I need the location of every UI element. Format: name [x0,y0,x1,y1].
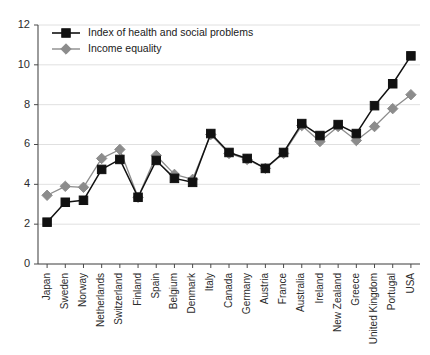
data-point-marker [225,148,234,157]
y-tick-label: 12 [18,18,30,30]
x-tick-label: Belgium [168,273,179,309]
chart-container: 024681012JapanSwedenNorwayNetherlandsSwi… [0,0,430,355]
y-tick-label: 6 [24,137,30,149]
data-point-marker [96,153,106,163]
line-chart: 024681012JapanSwedenNorwayNetherlandsSwi… [0,0,430,355]
data-point-marker [352,129,361,138]
data-point-marker [407,52,416,61]
series-income-equality [42,90,416,203]
x-axis-ticks: JapanSwedenNorwayNetherlandsSwitzerlandF… [41,264,416,344]
y-axis-ticks: 024681012 [18,18,38,269]
data-point-marker [334,120,343,129]
data-point-marker [43,218,52,227]
legend-label: Income equality [88,42,162,54]
x-tick-label: Finland [132,273,143,306]
data-point-marker [134,193,143,202]
x-tick-label: Ireland [314,273,325,304]
x-tick-label: Australia [295,273,306,312]
x-tick-label: Spain [150,273,161,299]
data-point-marker [79,196,88,205]
x-tick-label: Austria [259,273,270,305]
x-tick-label: United Kingdom [368,273,379,344]
gridlines [38,25,420,264]
x-tick-label: France [277,273,288,305]
x-tick-label: Sweden [59,273,70,309]
data-point-marker [406,90,416,100]
x-tick-label: Canada [223,273,234,308]
data-point-marker [261,164,270,173]
data-point-marker [370,101,379,110]
data-point-marker [61,44,71,54]
y-tick-label: 10 [18,58,30,70]
x-tick-label: Norway [77,273,88,307]
y-tick-label: 0 [24,257,30,269]
data-point-marker [170,174,179,183]
x-tick-label: Denmark [186,272,197,314]
data-point-marker [207,129,216,138]
data-point-marker [188,178,197,187]
data-point-marker [298,119,307,128]
data-point-marker [388,80,397,89]
x-tick-label: Portugal [386,273,397,310]
data-point-marker [152,156,161,165]
x-tick-label: Italy [204,273,215,291]
x-tick-label: USA [405,273,416,294]
data-point-marker [115,144,125,154]
x-tick-label: New Zealand [332,273,343,332]
data-point-marker [62,29,71,38]
data-point-marker [78,182,88,192]
data-point-marker [116,155,125,164]
data-point-marker [279,148,288,157]
y-tick-label: 4 [24,177,30,189]
legend-label: Index of health and social problems [88,26,253,38]
x-tick-label: Germany [241,273,252,314]
x-tick-label: Switzerland [113,273,124,325]
y-tick-label: 2 [24,217,30,229]
legend: Index of health and social problemsIncom… [52,26,253,54]
x-tick-label: Netherlands [95,273,106,327]
legend-item-index-health-social-problems: Index of health and social problems [52,26,253,38]
data-point-marker [316,131,325,140]
legend-item-income-equality: Income equality [52,42,162,54]
data-point-marker [60,181,70,191]
data-point-marker [243,154,252,163]
y-tick-label: 8 [24,98,30,110]
data-point-marker [97,165,106,174]
data-point-marker [61,198,70,207]
data-point-marker [42,190,52,200]
x-tick-label: Japan [41,273,52,300]
x-tick-label: Greece [350,273,361,306]
